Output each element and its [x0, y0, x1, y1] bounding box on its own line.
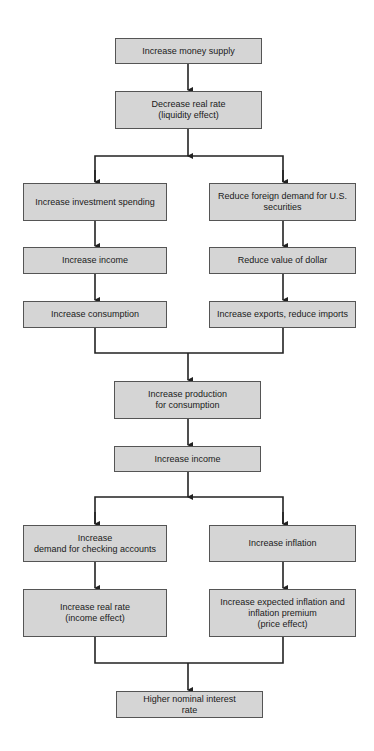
node-higher-nominal-interest-rate: Higher nominal interest rate [116, 691, 263, 718]
node-label: Decrease real rate (liquidity effect) [151, 99, 225, 121]
node-label: Increase income [154, 454, 220, 465]
node-increase-inflation: Increase inflation [209, 525, 356, 562]
node-label: Increase income [62, 255, 128, 266]
node-label: Reduce value of dollar [238, 255, 328, 266]
node-label: Increase consumption [51, 309, 139, 320]
node-label: Increase production for consumption [148, 389, 227, 411]
node-increase-consumption: Increase consumption [23, 301, 167, 328]
node-label: Higher nominal interest rate [143, 694, 236, 716]
node-increase-demand-checking: Increase demand for checking accounts [23, 525, 167, 562]
node-increase-money-supply: Increase money supply [115, 38, 262, 64]
node-label: Reduce foreign demand for U.S. securitie… [218, 191, 347, 213]
node-reduce-foreign-demand: Reduce foreign demand for U.S. securitie… [209, 183, 356, 221]
node-increase-income-left: Increase income [23, 247, 167, 274]
node-increase-real-rate: Increase real rate (income effect) [23, 589, 167, 637]
node-increase-investment-spending: Increase investment spending [23, 183, 167, 221]
node-reduce-value-of-dollar: Reduce value of dollar [209, 247, 356, 274]
node-label: Increase inflation [248, 538, 316, 549]
node-label: Increase real rate (income effect) [60, 602, 130, 624]
node-increase-production: Increase production for consumption [114, 381, 261, 419]
node-label: Increase exports, reduce imports [217, 309, 348, 320]
node-increase-income-center: Increase income [114, 446, 261, 472]
node-label: Increase expected inflation and inflatio… [220, 597, 345, 630]
node-label: Increase demand for checking accounts [34, 533, 156, 555]
node-increase-exports: Increase exports, reduce imports [209, 301, 356, 328]
node-label: Increase investment spending [35, 197, 155, 208]
node-increase-expected-inflation: Increase expected inflation and inflatio… [209, 589, 356, 637]
node-decrease-real-rate: Decrease real rate (liquidity effect) [115, 91, 262, 129]
node-label: Increase money supply [142, 46, 235, 57]
